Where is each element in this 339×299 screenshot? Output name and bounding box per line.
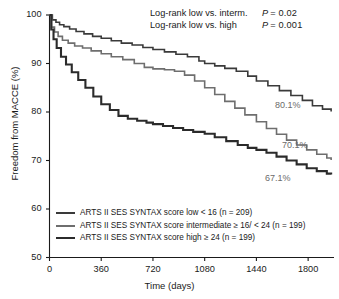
x-tick-label: 1080 xyxy=(185,264,225,274)
p-symbol-interm: P xyxy=(262,8,268,20)
x-tick-label: 1800 xyxy=(288,264,328,274)
logrank-label-high: Log-rank low vs. high xyxy=(150,20,262,32)
legend-item-intermediate[interactable]: ARTS II SES SYNTAX score intermediate ≥ … xyxy=(56,220,305,233)
endpoint-label-high: 67.1% xyxy=(265,173,291,183)
x-tick-label: 0 xyxy=(30,264,70,274)
p-value-interm: = 0.02 xyxy=(270,8,297,20)
legend-item-low[interactable]: ARTS II SES SYNTAX score low < 16 (n = 2… xyxy=(56,207,305,220)
kaplan-meier-figure: Log-rank low vs. interm. P = 0.02 Log-ra… xyxy=(0,0,339,299)
y-tick-label: 100 xyxy=(16,9,42,19)
survival-curves xyxy=(50,15,332,175)
p-value-high: = 0.001 xyxy=(270,20,302,32)
legend-label-low: ARTS II SES SYNTAX score low < 16 (n = 2… xyxy=(80,207,252,220)
logrank-row-interm: Log-rank low vs. interm. P = 0.02 xyxy=(150,8,302,20)
legend-item-high[interactable]: ARTS II SES SYNTAX score high ≥ 24 (n = … xyxy=(56,232,305,245)
survival-curve-high xyxy=(50,15,332,175)
logrank-row-high: Log-rank low vs. high P = 0.001 xyxy=(150,20,302,32)
x-tick-label: 360 xyxy=(81,264,121,274)
legend-swatch-low xyxy=(56,212,75,214)
y-tick-label: 80 xyxy=(16,106,42,116)
legend-swatch-high xyxy=(56,237,75,239)
y-tick-label: 90 xyxy=(16,58,42,68)
legend-label-intermediate: ARTS II SES SYNTAX score intermediate ≥ … xyxy=(80,220,305,233)
y-tick-label: 70 xyxy=(16,155,42,165)
endpoint-label-intermediate: 70.1% xyxy=(282,140,308,150)
x-axis-title: Time (days) xyxy=(0,280,339,291)
y-tick-label: 60 xyxy=(16,203,42,213)
legend-swatch-intermediate xyxy=(56,225,75,227)
legend: ARTS II SES SYNTAX score low < 16 (n = 2… xyxy=(56,207,305,245)
endpoint-label-low: 80.1% xyxy=(275,100,301,110)
logrank-label-interm: Log-rank low vs. interm. xyxy=(150,8,262,20)
logrank-annotations: Log-rank low vs. interm. P = 0.02 Log-ra… xyxy=(150,8,302,31)
x-tick-label: 720 xyxy=(133,264,173,274)
p-symbol-high: P xyxy=(262,20,268,32)
x-tick-label: 1440 xyxy=(236,264,276,274)
legend-label-high: ARTS II SES SYNTAX score high ≥ 24 (n = … xyxy=(80,232,255,245)
y-tick-label: 50 xyxy=(16,252,42,262)
